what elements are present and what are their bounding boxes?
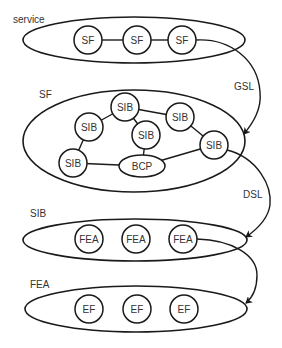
sib-node: SIB [132,121,160,149]
layered-architecture-diagram: service SF SF SF GSL SF [0,0,282,348]
sib-node-label: SIB [81,122,97,133]
ef-node-label: EF [131,304,144,315]
ef-node-label: EF [178,304,191,315]
gsl-link: GSL [196,40,260,134]
sib-node-label: SIB [138,130,154,141]
fea-link-arrow [197,239,257,303]
sib-node-label: SIB [117,102,133,113]
sib-node-label: SIB [206,140,222,151]
fea-layer: FEA EF EF EF [25,279,247,332]
sf-node: SF [74,26,102,54]
fea-node-label: FEA [79,234,99,245]
ef-node: EF [75,295,103,323]
ef-node: EF [123,295,151,323]
bcp-node-label: BCP [132,161,153,172]
fea-node-label: FEA [173,234,193,245]
bcp-node: BCP [119,155,165,177]
sib-node: SIB [59,149,87,177]
sf-layer-label: SF [39,89,52,100]
service-layer-label: service [13,14,45,25]
sf-layer: SF SIB SIB SIB SIB SIB [23,89,245,192]
fea-node-label: FEA [126,234,146,245]
sf-node-label: SF [82,35,95,46]
fea-node: FEA [169,225,197,253]
dsl-label: DSL [243,189,263,200]
sib-node: SIB [111,93,139,121]
ef-node-label: EF [83,304,96,315]
fea-layer-label: FEA [30,279,50,290]
sib-layer: SIB FEA FEA FEA [23,208,247,261]
sf-node-label: SF [131,35,144,46]
fea-link [197,239,257,303]
fea-node: FEA [122,225,150,253]
ef-node: EF [170,295,198,323]
gsl-label: GSL [234,81,254,92]
sib-node: SIB [75,113,103,141]
sib-node-label: SIB [172,112,188,123]
sib-node-label: SIB [65,158,81,169]
sf-node: SF [168,26,196,54]
sib-layer-label: SIB [30,208,46,219]
sf-node: SF [123,26,151,54]
sf-node-label: SF [176,35,189,46]
service-layer: service SF SF SF [13,14,245,63]
sib-node: SIB [166,103,194,131]
fea-node: FEA [75,225,103,253]
sib-node: SIB [200,131,228,159]
